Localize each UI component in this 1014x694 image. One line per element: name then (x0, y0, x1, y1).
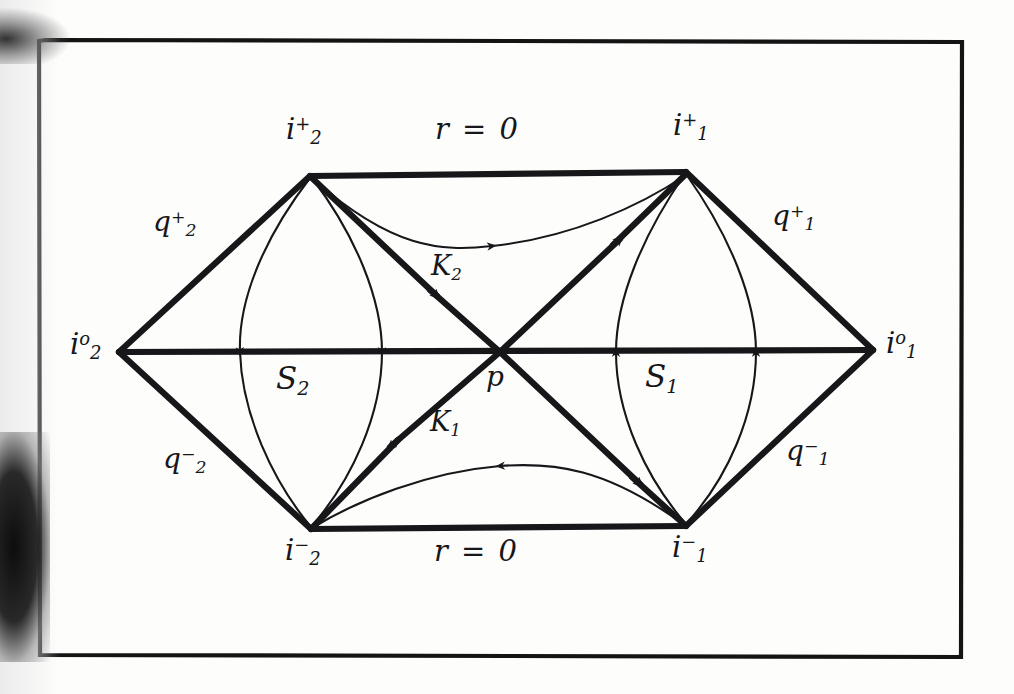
horizon-K2-upper (312, 178, 437, 296)
label-region-S1-base: S (645, 358, 666, 394)
label-top-r-equals-zero: r = 0 (435, 112, 520, 146)
edge-bottom-r0 (311, 526, 686, 529)
label-i1-plus: i+1 (673, 108, 709, 144)
label-i2-plus-base: i (286, 112, 295, 146)
label-region-S1-sub: 1 (666, 375, 678, 398)
curve-S1-left-tail (616, 174, 685, 352)
label-i1-minus-sup: − (681, 531, 696, 552)
label-i2-zero-sup: o (79, 328, 90, 349)
label-scri-plus-2-base: q (153, 205, 171, 238)
label-scri-plus-1: q+1 (772, 199, 816, 234)
label-i1-zero: io1 (886, 326, 918, 362)
label-center-point-p-base: p (486, 360, 504, 393)
label-i1-plus-base: i (673, 108, 682, 142)
label-i1-plus-sub: 1 (697, 123, 708, 144)
label-scri-minus-1: q−1 (786, 434, 830, 469)
conformal-diagram-svg (0, 0, 1014, 694)
label-scri-minus-2-base: q (163, 442, 181, 475)
label-i2-minus-sub: 2 (309, 548, 320, 569)
label-scri-minus-1-sup: − (804, 436, 819, 456)
label-i2-minus: i−2 (285, 533, 321, 569)
edge-q1-minus (686, 350, 873, 526)
label-i1-plus-sup: + (682, 109, 697, 130)
label-scri-minus-1-sub: 1 (818, 449, 829, 469)
horizon-K1-lower-tail (311, 440, 398, 529)
label-i1-minus: i−1 (672, 530, 708, 566)
label-scri-plus-2-sup: + (171, 207, 186, 227)
label-i2-minus-sup: − (294, 534, 309, 555)
curve-S2-right-tail (311, 352, 382, 527)
label-horizon-K1-sub: 1 (450, 420, 461, 440)
label-scri-plus-1-sup: + (790, 201, 805, 221)
curve-top-crossing (314, 180, 492, 248)
label-region-S2-base: S (276, 360, 297, 396)
curve-S1-right-tail (686, 174, 756, 352)
label-scri-plus-1-base: q (772, 199, 790, 232)
label-bottom-r-equals-zero: r = 0 (434, 534, 519, 568)
label-horizon-K2-base: K (431, 250, 451, 281)
edge-q2-plus (119, 176, 310, 352)
label-region-S1: S1 (645, 358, 678, 398)
label-i2-plus-sup: + (295, 113, 310, 134)
label-horizon-K2: K2 (431, 250, 462, 284)
label-region-S2: S2 (276, 360, 309, 400)
label-i2-zero-sub: 2 (90, 342, 101, 363)
label-i2-plus: i+2 (286, 112, 322, 148)
curve-S2-right (312, 178, 382, 352)
label-i1-minus-base: i (672, 530, 681, 564)
label-scri-minus-2: q−2 (163, 442, 207, 477)
label-i2-plus-sub: 2 (310, 127, 321, 148)
label-scri-plus-1-sub: 1 (804, 214, 815, 234)
figure-page: i+2 i+1 r = 0 i−2 i−1 r = 0 io2 io1 q+2 … (0, 0, 1014, 694)
label-i1-minus-sub: 1 (696, 545, 707, 566)
label-horizon-K1: K1 (430, 406, 461, 440)
label-i2-minus-base: i (285, 533, 294, 567)
label-scri-minus-1-base: q (786, 434, 804, 467)
label-i1-zero-sup: o (895, 327, 906, 348)
horizon-K2-upper-tail (430, 290, 500, 352)
label-scri-minus-2-sub: 2 (195, 457, 206, 477)
label-region-S2-sub: 2 (297, 377, 309, 400)
horizon-K2-lower-tail (632, 477, 686, 526)
edge-top-r0 (310, 172, 686, 176)
curve-S1-right (686, 352, 756, 524)
curve-top-crossing-tail (492, 175, 686, 246)
label-i2-zero-base: i (70, 327, 79, 361)
label-center-point-p: p (486, 360, 504, 393)
label-i1-zero-base: i (886, 326, 895, 360)
label-scri-plus-2-sub: 2 (185, 220, 196, 240)
label-scri-plus-2: q+2 (153, 205, 197, 240)
label-horizon-K2-sub: 2 (451, 264, 462, 284)
label-scri-minus-2-sup: − (181, 444, 196, 464)
label-i1-zero-sub: 1 (906, 341, 917, 362)
horizon-K1-upper (500, 239, 620, 352)
label-horizon-K1-base: K (430, 406, 450, 437)
label-i2-zero: io2 (70, 327, 102, 363)
